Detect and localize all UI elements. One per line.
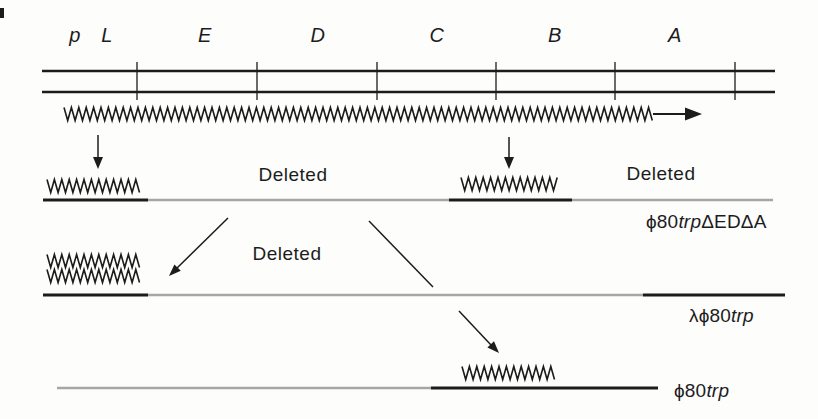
strain-label-phi80trp: ϕ80trp — [674, 380, 729, 402]
primary-transcript-wave — [64, 108, 652, 121]
strain1-right-transcript-wave — [461, 178, 557, 191]
strain-label-phi80trp-dED-dA: ϕ80trpΔEDΔA — [646, 211, 767, 233]
strain1-left-transcript-wave — [47, 180, 140, 193]
strain2-name-gene: trp — [731, 305, 754, 326]
diagonal-arrow-left-shaft — [175, 218, 228, 270]
region-label-D: D — [311, 24, 326, 47]
diagonal-arrow-right — [369, 221, 499, 353]
deleted-annotation-row1-middle: Deleted — [259, 164, 328, 186]
deleted-annotation-row1-right: Deleted — [627, 163, 696, 185]
strain2-name-prefix: λϕ80 — [689, 305, 731, 326]
strain1-name-prefix: ϕ80 — [646, 211, 678, 232]
diagram-artwork — [0, 0, 818, 419]
diagonal-arrow-right-shaft-lower — [459, 311, 491, 345]
strain3-name-gene: trp — [706, 380, 729, 401]
region-label-p: p — [69, 24, 81, 47]
down-arrow-right — [504, 137, 514, 169]
strain1-name-suffix: ΔEDΔA — [701, 211, 766, 232]
figure-canvas: p L E D C B A Deleted Deleted Deleted ϕ8… — [0, 0, 818, 419]
diagonal-arrow-left — [169, 218, 228, 276]
strain2-transcript-wave-lower — [47, 270, 140, 283]
deleted-annotation-row2: Deleted — [253, 243, 322, 265]
primary-transcript-arrowhead — [685, 108, 702, 121]
down-arrow-left-head — [93, 157, 103, 169]
region-label-C: C — [430, 24, 445, 47]
strain-label-lambda-phi80trp: λϕ80trp — [689, 305, 754, 327]
down-arrow-right-head — [504, 157, 514, 169]
region-label-B: B — [548, 24, 562, 47]
scan-artifact — [0, 8, 4, 18]
region-label-L: L — [101, 24, 113, 47]
diagonal-arrow-right-shaft-upper — [369, 221, 433, 287]
region-label-A: A — [668, 24, 682, 47]
strain2-transcript-wave-upper — [47, 255, 140, 268]
strain1-name-gene: trp — [678, 211, 701, 232]
strain3-transcript-wave — [462, 367, 555, 380]
strain3-name-prefix: ϕ80 — [674, 380, 706, 401]
region-label-E: E — [198, 24, 212, 47]
down-arrow-left — [93, 135, 103, 169]
